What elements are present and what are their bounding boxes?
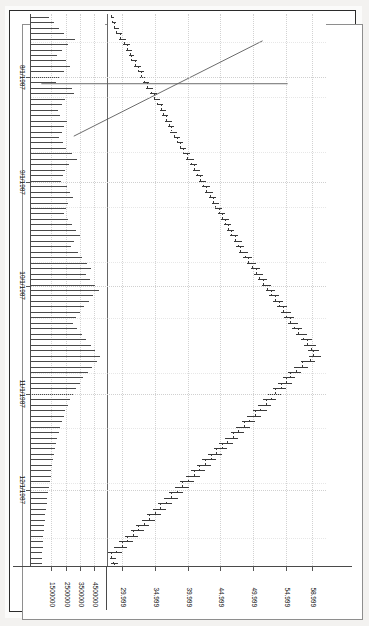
ohlc-open-tick	[116, 551, 117, 553]
date-gridline	[31, 77, 326, 78]
ohlc-open-tick	[260, 409, 261, 411]
volume-bar	[31, 454, 54, 455]
ohlc-close-tick	[259, 274, 260, 276]
ohlc-open-tick	[245, 256, 246, 258]
value-axis-strip[interactable]: 58.99954.99949.99944.99939.99934.99929.9…	[13, 566, 352, 610]
volume-bar	[31, 339, 86, 340]
volume-bar	[31, 367, 92, 368]
rotated-chart-canvas: AAPL-Daily Created with TradeStation www…	[13, 14, 352, 610]
date-axis-tick	[26, 77, 30, 78]
ohlc-open-tick	[111, 556, 112, 558]
price-axis-label: 58.999	[310, 587, 317, 607]
volume-bar	[31, 345, 91, 346]
price-axis-tick	[122, 566, 123, 571]
ohlc-open-tick	[266, 403, 267, 405]
volume-bar	[31, 514, 46, 515]
ohlc-bar	[283, 377, 295, 378]
ohlc-open-tick	[144, 81, 145, 83]
volume-bar	[31, 520, 45, 521]
ohlc-open-tick	[263, 283, 264, 285]
ohlc-close-tick	[157, 99, 158, 101]
ohlc-open-tick	[290, 376, 291, 378]
ohlc-open-tick	[131, 59, 132, 61]
volume-bar	[31, 312, 80, 313]
ohlc-close-tick	[263, 279, 264, 281]
ohlc-open-tick	[138, 70, 139, 72]
date-gridline-minor	[31, 42, 326, 43]
ohlc-close-tick	[216, 448, 217, 450]
ohlc-open-tick	[219, 212, 220, 214]
ohlc-open-tick	[238, 430, 239, 432]
ohlc-open-tick	[222, 447, 223, 449]
volume-bar	[31, 60, 66, 61]
volume-bar	[31, 503, 47, 504]
ohlc-open-tick	[187, 157, 188, 159]
ohlc-close-tick	[149, 514, 150, 516]
ohlc-open-tick	[213, 201, 214, 203]
ohlc-close-tick	[111, 552, 112, 554]
ohlc-close-tick	[160, 503, 161, 505]
volume-bar	[31, 536, 43, 537]
ohlc-open-tick	[283, 310, 284, 312]
ohlc-open-tick	[199, 469, 200, 471]
ohlc-open-tick	[267, 288, 268, 290]
date-axis-label: 9/1/1987	[19, 170, 26, 195]
ohlc-close-tick	[127, 44, 128, 46]
ohlc-open-tick	[169, 124, 170, 126]
ohlc-open-tick	[271, 294, 272, 296]
volume-bar	[31, 71, 64, 72]
ohlc-close-tick	[227, 438, 228, 440]
ohlc-close-tick	[222, 443, 223, 445]
ohlc-close-tick	[225, 219, 226, 221]
chart-plot-area[interactable]: AAPL-Daily Created with TradeStation www…	[13, 14, 352, 610]
volume-bar	[31, 547, 43, 548]
date-axis-label: 11/1/1987	[19, 380, 26, 408]
volume-bar	[31, 438, 57, 439]
price-axis-label: 29.999	[120, 587, 127, 607]
ohlc-open-tick	[180, 146, 181, 148]
date-axis[interactable]: 8/1/19879/1/198710/1/198711/1/198712/1/1…	[12, 14, 31, 566]
ohlc-close-tick	[177, 137, 178, 139]
volume-bar	[31, 142, 63, 143]
ohlc-close-tick	[194, 164, 195, 166]
ohlc-close-tick	[144, 520, 145, 522]
ohlc-open-tick	[127, 540, 128, 542]
volume-bar	[31, 295, 93, 296]
ohlc-open-tick	[216, 452, 217, 454]
ohlc-close-tick	[141, 71, 142, 73]
volume-bar	[31, 421, 62, 422]
ohlc-close-tick	[115, 563, 116, 565]
ohlc-close-tick	[279, 301, 280, 303]
volume-bar	[31, 432, 59, 433]
volume-axis-tick	[66, 566, 67, 571]
ohlc-open-tick	[174, 135, 175, 137]
ohlc-open-tick	[228, 228, 229, 230]
ohlc-close-tick	[191, 159, 192, 161]
ohlc-open-tick	[210, 195, 211, 197]
price-axis-label: 54.999	[284, 587, 291, 607]
scan-background: AAPL-Daily Created with TradeStation www…	[0, 0, 369, 626]
date-axis-tick	[26, 182, 30, 183]
volume-bar	[31, 22, 54, 23]
volume-axis-tick	[80, 566, 81, 571]
volume-bar	[31, 558, 42, 559]
price-axis-tick	[188, 566, 189, 571]
ohlc-open-tick	[303, 338, 304, 340]
ohlc-open-tick	[191, 163, 192, 165]
ohlc-close-tick	[245, 252, 246, 254]
ohlc-open-tick	[235, 239, 236, 241]
ohlc-open-tick	[252, 266, 253, 268]
ohlc-open-tick	[144, 523, 145, 525]
date-axis-tick	[26, 286, 30, 287]
volume-axis-label: 4500000	[92, 582, 99, 607]
ohlc-close-tick	[215, 203, 216, 205]
ohlc-close-tick	[138, 66, 139, 68]
volume-bar	[31, 99, 65, 100]
volume-bar	[31, 33, 64, 34]
date-gridline-minor	[31, 152, 326, 153]
ohlc-close-tick	[286, 377, 287, 379]
volume-bar	[31, 509, 46, 510]
ohlc-open-tick	[259, 277, 260, 279]
volume-bar	[31, 361, 97, 362]
volume-bar	[31, 55, 57, 56]
